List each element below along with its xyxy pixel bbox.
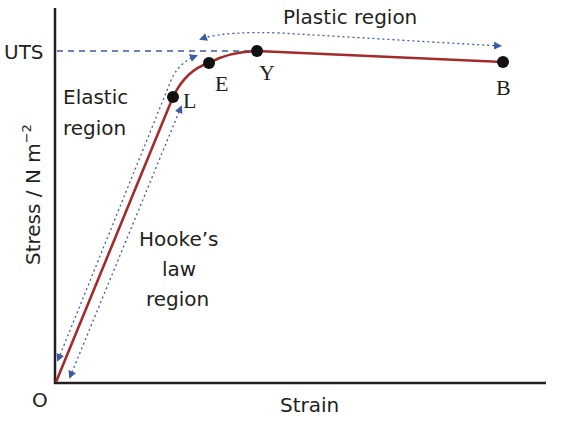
point-Y — [251, 45, 263, 57]
point-E — [203, 57, 215, 69]
point-B — [497, 56, 509, 68]
label-B: B — [496, 75, 511, 100]
point-L — [167, 91, 179, 103]
plastic-region-arrow-left — [201, 33, 230, 39]
elastic-region-label-line1: Elastic — [63, 85, 128, 109]
plastic-region-label: Plastic region — [283, 5, 417, 29]
y-axis-label-text: Stress / N m — [21, 143, 45, 265]
uts-label: UTS — [4, 40, 44, 64]
x-axis-label: Strain — [280, 393, 339, 417]
plastic-region-arrow — [203, 33, 500, 46]
hookes-law-label-line1: Hooke’s — [139, 227, 218, 251]
label-L: L — [183, 88, 196, 113]
y-axis-label: Stress / N m−2 — [19, 124, 45, 265]
label-E: E — [215, 71, 228, 96]
origin-label: O — [32, 388, 48, 412]
label-Y: Y — [259, 60, 275, 85]
hookes-law-label-line3: region — [146, 287, 209, 311]
stress-strain-diagram: L E Y B UTS O Strain Stress / N m−2 Plas… — [0, 0, 564, 423]
hookes-law-label-line2: law — [162, 257, 196, 281]
elastic-region-label-line2: region — [63, 116, 126, 140]
y-axis-label-superscript: −2 — [19, 124, 34, 143]
elastic-region-arrow-top — [172, 56, 196, 78]
